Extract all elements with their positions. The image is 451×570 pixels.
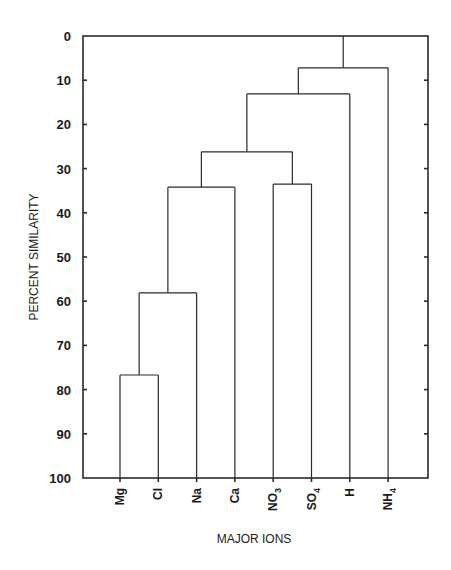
y-tick-label: 10 (57, 73, 71, 88)
y-tick-label: 80 (57, 383, 71, 398)
category-label-no3: NO3 (266, 488, 283, 511)
dendrogram-links (120, 36, 388, 478)
y-tick-label: 60 (57, 294, 71, 309)
y-tick-label: 0 (64, 29, 71, 44)
dendrogram-chart: 0102030405060708090100 MgClNaCaNO3SO4HNH… (0, 0, 451, 570)
y-tick-label: 100 (49, 471, 71, 486)
x-axis-labels: MgClNaCaNO3SO4HNH4 (113, 478, 398, 511)
category-label-h: H (343, 488, 357, 497)
category-label-mg: Mg (113, 488, 127, 505)
category-label-na: Na (190, 488, 204, 504)
category-label-ca: Ca (228, 488, 242, 504)
y-tick-label: 40 (57, 206, 71, 221)
y-axis-title: PERCENT SIMILARITY (27, 193, 41, 320)
y-tick-label: 20 (57, 117, 71, 132)
plot-frame (83, 36, 428, 478)
y-tick-label: 50 (57, 250, 71, 265)
y-tick-label: 90 (57, 427, 71, 442)
category-label-cl: Cl (151, 488, 165, 500)
x-axis-title: MAJOR IONS (217, 532, 292, 546)
y-tick-label: 70 (57, 338, 71, 353)
category-label-so4: SO4 (305, 488, 322, 510)
y-tick-label: 30 (57, 162, 71, 177)
category-label-nh4: NH4 (381, 488, 398, 510)
y-axis-ticks: 0102030405060708090100 (49, 29, 428, 486)
